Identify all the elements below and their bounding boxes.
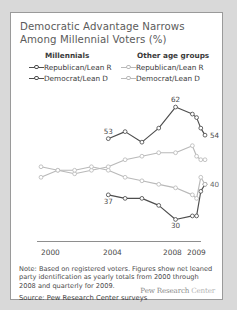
chart-legend: Millennials Republican/Lean R Democrat/L…: [11, 51, 224, 87]
series-data-point: [174, 105, 178, 109]
data-point-label: 40: [210, 180, 220, 189]
series-data-point: [140, 179, 144, 183]
x-axis-tick-label: 2000: [41, 248, 60, 257]
series-data-point: [157, 126, 161, 130]
legend-item-label: Democrat/Lean D: [44, 74, 108, 83]
series-data-point: [195, 214, 199, 218]
legend-group-other-age-groups: Other age groups Republican/Lean R Democ…: [121, 51, 209, 84]
series-data-point: [195, 196, 199, 200]
series-data-point: [190, 144, 194, 148]
legend-marker-line-icon: [29, 74, 44, 83]
series-data-point: [123, 130, 127, 134]
chart-card: Democratic Advantage Narrows Among Mille…: [10, 12, 223, 300]
series-line: [108, 107, 205, 142]
series-data-point: [39, 175, 43, 179]
x-axis-tick-label: 2004: [103, 248, 122, 257]
series-line: [108, 184, 205, 219]
series-data-point: [140, 154, 144, 158]
x-axis-tick-label: 2008: [163, 248, 182, 257]
chart-plot-area: 536254373040: [11, 87, 224, 242]
line-chart-svg: 536254373040: [11, 87, 224, 242]
series-data-point: [140, 196, 144, 200]
series-data-point: [203, 158, 207, 162]
series-data-point: [157, 151, 161, 155]
legend-group-millennials: Millennials Republican/Lean R Democrat/L…: [29, 51, 112, 84]
legend-marker-line-icon: [29, 63, 44, 72]
data-point-label: 62: [171, 95, 180, 104]
data-point-label: 53: [104, 127, 113, 136]
pew-research-center-wordmark: Pew Research Center: [140, 286, 215, 295]
series-data-point: [190, 112, 194, 116]
series-data-point: [90, 165, 94, 169]
series-data-point: [73, 168, 77, 172]
chart-title: Democratic Advantage Narrows Among Mille…: [20, 21, 216, 46]
legend-item-millennial-democrat[interactable]: Democrat/Lean D: [29, 73, 112, 84]
series-data-point: [199, 175, 203, 179]
series-data-point: [106, 168, 110, 172]
x-axis-tick-label: 2009: [187, 248, 206, 257]
series-data-point: [199, 189, 203, 193]
series-data-point: [203, 133, 207, 137]
chart-source: Source: Pew Research Center surveys: [19, 294, 217, 302]
series-data-point: [123, 175, 127, 179]
legend-item-label: Democrat/Lean D: [136, 74, 200, 83]
series-data-point: [203, 182, 207, 186]
series-data-point: [199, 158, 203, 162]
series-data-point: [123, 196, 127, 200]
series-data-point: [174, 151, 178, 155]
series-data-point: [157, 182, 161, 186]
legend-marker-line-icon: [121, 74, 136, 83]
series-data-point: [123, 158, 127, 162]
data-point-label: 54: [210, 131, 220, 140]
series-data-point: [190, 214, 194, 218]
wordmark-bold: Pew Research: [140, 286, 189, 295]
series-data-point: [190, 193, 194, 197]
series-data-point: [106, 137, 110, 141]
series-data-point: [140, 140, 144, 144]
x-axis-line: [37, 241, 201, 242]
data-point-label: 30: [171, 221, 181, 230]
series-data-point: [195, 116, 199, 120]
legend-item-millennial-republican[interactable]: Republican/Lean R: [29, 62, 112, 73]
legend-item-other-democrat[interactable]: Democrat/Lean D: [121, 73, 209, 84]
legend-group-heading: Other age groups: [137, 51, 209, 60]
series-data-point: [157, 203, 161, 207]
legend-group-heading: Millennials: [45, 51, 112, 60]
legend-item-label: Republican/Lean R: [136, 63, 204, 72]
wordmark-light: Center: [191, 286, 215, 295]
series-data-point: [199, 126, 203, 130]
series-data-point: [174, 186, 178, 190]
series-line: [41, 146, 205, 178]
series-data-point: [39, 165, 43, 169]
chart-x-axis: 2000200420082009: [11, 241, 224, 265]
data-point-label: 37: [104, 197, 113, 206]
series-data-point: [195, 154, 199, 158]
series-data-point: [56, 168, 60, 172]
legend-item-label: Republican/Lean R: [44, 63, 112, 72]
legend-marker-line-icon: [121, 63, 136, 72]
legend-item-other-republican[interactable]: Republican/Lean R: [121, 62, 209, 73]
